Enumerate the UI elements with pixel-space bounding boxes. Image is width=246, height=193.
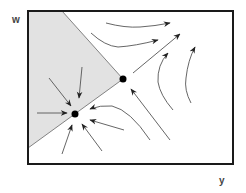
trajectory-arrow — [62, 125, 72, 154]
trajectory-arrow — [158, 53, 173, 110]
phase-plane — [0, 0, 246, 193]
trajectory-arrow — [186, 47, 195, 103]
trajectory-arrow — [131, 89, 170, 140]
stable-node-point — [72, 111, 79, 118]
trajectory-arrow — [133, 34, 180, 73]
trajectory-arrow — [82, 124, 102, 151]
shaded-basin-region — [28, 11, 123, 148]
trajectory-arrow — [90, 120, 124, 130]
saddle-point — [120, 76, 127, 83]
trajectory-arrow — [106, 23, 170, 27]
trajectory-arrow — [91, 33, 158, 47]
